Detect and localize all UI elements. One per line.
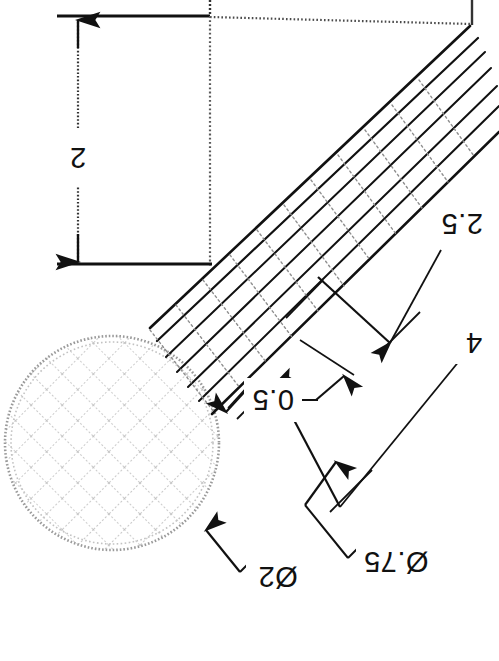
dimension-label-length-4: 4 <box>466 327 483 359</box>
dimension-label-diameter-2: Ø2 <box>258 561 298 593</box>
dimension-label-width-0p5: 0.5 <box>252 384 294 416</box>
dimension-label-diameter-0p75: Ø.75 <box>364 546 429 578</box>
technical-drawing-canvas: 2 2.5 4 <box>0 0 499 661</box>
dimension-label-height-2: 2 <box>70 142 87 174</box>
drawing-svg: 2 2.5 4 <box>0 0 499 661</box>
dimension-label-length-2p5: 2.5 <box>441 208 483 240</box>
